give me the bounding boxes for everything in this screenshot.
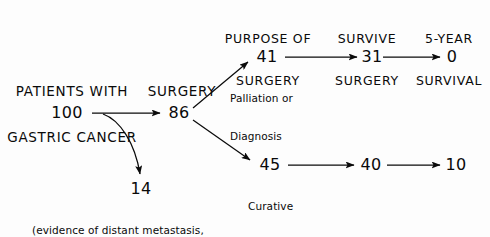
column-header-five-year-survival-line1: 5-YEAR (412, 32, 486, 46)
node-curative-5yr-value: 10 (442, 156, 470, 174)
column-header-five-year-survival-line2: SURVIVAL (412, 74, 486, 88)
stage-label-patients-line1: PATIENTS WITH (6, 84, 138, 99)
node-curative-value: 45 (255, 156, 285, 174)
gastric-cancer-flow-diagram: PURPOSE OF SURGERY SURVIVE SURGERY 5-YEA… (0, 0, 490, 237)
exclusion-note-line1: (evidence of distant metastasis, (32, 224, 232, 237)
node-palliation-value: 41 (252, 48, 282, 66)
node-curative-caption: Curative Resection (248, 174, 314, 237)
node-cohort-value: 100 (42, 104, 92, 122)
column-header-survive-surgery-line2: SURGERY (330, 74, 404, 88)
node-palliation-caption: Palliation or Diagnosis (230, 66, 314, 168)
node-palliation-survive-value: 31 (358, 48, 386, 66)
stage-label-patients-line2: GASTRIC CANCER (6, 130, 138, 145)
column-header-survive-surgery-line1: SURVIVE (330, 32, 404, 46)
node-surgery-value: 86 (164, 104, 194, 122)
node-palliation-5yr-value: 0 (442, 48, 462, 66)
stage-label-surgery-line1: SURGERY (140, 84, 224, 99)
node-palliation-caption-line2: Diagnosis (230, 130, 314, 143)
node-curative-survive-value: 40 (356, 156, 386, 174)
node-palliation-caption-line1: Palliation or (230, 92, 314, 105)
column-header-purpose-of-surgery-line1: PURPOSE OF (216, 32, 320, 46)
node-curative-caption-line1: Curative (248, 200, 314, 213)
node-no-surgery-value: 14 (126, 180, 156, 198)
exclusion-note: (evidence of distant metastasis, poor su… (32, 197, 232, 237)
